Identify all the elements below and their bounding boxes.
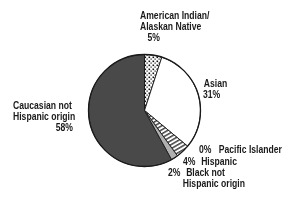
label-caucasian: Caucasian not Hispanic origin 58%: [13, 100, 75, 133]
label-pacific-islander: 0% Pacific Islander: [199, 144, 282, 155]
label-black: 2% Black not Hispanic origin: [168, 167, 245, 189]
label-american-indian: American Indian/ Alaskan Native 5%: [140, 10, 209, 43]
label-asian: Asian 31%: [203, 78, 227, 100]
